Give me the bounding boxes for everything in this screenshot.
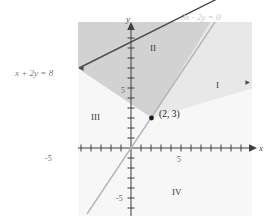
intersection-point-label: (2, 3) xyxy=(159,110,180,120)
region-label-ii: II xyxy=(150,44,156,53)
equation-label-right: 3x - 2y = 0 xyxy=(181,13,221,22)
x-axis-label: x xyxy=(259,144,263,153)
equation-label-left: x + 2y = 8 xyxy=(15,69,53,78)
x-tick-label-neg5: -5 xyxy=(45,155,52,163)
y-axis-label: y xyxy=(126,15,130,24)
graph-figure: x + 2y = 8 3x - 2y = 0 (2, 3) I II III I… xyxy=(0,0,268,224)
y-tick-label-pos5: 5 xyxy=(121,87,125,95)
region-label-i: I xyxy=(216,81,219,90)
x-tick-label-pos5: 5 xyxy=(177,156,181,164)
x-axis-arrow xyxy=(249,144,257,152)
region-label-iii: III xyxy=(91,113,100,122)
coordinate-plane xyxy=(0,0,268,224)
region-label-iv: IV xyxy=(172,188,182,197)
y-tick-label-neg5: -5 xyxy=(116,195,123,203)
intersection-point-dot xyxy=(149,116,154,121)
